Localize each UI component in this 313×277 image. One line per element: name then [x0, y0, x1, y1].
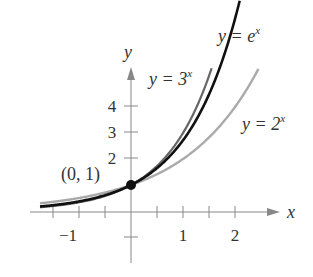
- tick-label-x-1: 1: [179, 226, 188, 245]
- x-axis-arrow-icon: [267, 208, 280, 216]
- point-label: (0, 1): [61, 164, 100, 185]
- x-axis-label: x: [286, 202, 295, 222]
- exponential-chart: −1 1 2 4 3 2 x y (0, 1) y = 3x y = ex y …: [0, 0, 313, 277]
- y-axis-label: y: [122, 42, 132, 62]
- tick-label-y-2: 2: [108, 149, 117, 168]
- y-axis-arrow-icon: [127, 67, 135, 80]
- tick-label-x-2: 2: [231, 226, 240, 245]
- tick-label-y-4: 4: [108, 97, 117, 116]
- tick-label-y-3: 3: [108, 123, 117, 142]
- intercept-point: [126, 180, 136, 190]
- tick-label-x-neg1: −1: [59, 226, 77, 245]
- label-ex: y = ex: [216, 24, 260, 46]
- label-2x: y = 2x: [240, 112, 285, 134]
- label-3x: y = 3x: [147, 67, 192, 89]
